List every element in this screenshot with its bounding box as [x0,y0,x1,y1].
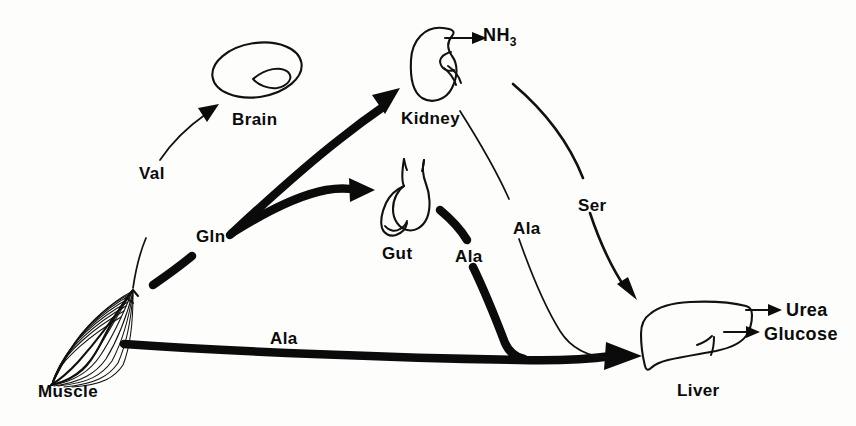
pathway-canvas [0,0,856,426]
product-label-glucose: Glucose [764,325,838,343]
metabolite-label-ser: Ser [578,197,607,214]
metabolite-label-ala-kidney: Ala [513,220,541,237]
stomach-gut-icon [381,159,429,236]
organ-label-kidney: Kidney [401,110,460,127]
flow-muscle-to-gln-trunk [153,256,192,285]
organ-label-muscle: Muscle [38,383,98,400]
pathway-diagram: Muscle Brain Kidney Gut Liver Val Gln Al… [0,0,856,426]
flow-muscle-to-liver-ala [124,342,642,370]
flow-kidney-to-liver-ser [513,84,637,300]
kidney-to-nh3-arrow [445,32,487,44]
metabolite-label-ala-gut: Ala [455,248,483,265]
organ-label-liver: Liver [677,382,720,399]
product-label-nh3: NH3 [483,26,517,48]
product-label-urea: Urea [786,301,828,319]
flow-muscle-to-brain-val [133,104,219,288]
skeletal-muscle-icon [51,290,138,387]
metabolite-label-ala-muscle: Ala [270,330,298,347]
nh3-formula-base: NH [483,25,510,45]
nh3-formula-subscript: 3 [510,35,517,49]
metabolite-label-val: Val [139,165,165,182]
brain-icon [208,36,305,103]
liver-to-glucose-arrow [724,326,760,338]
organ-label-brain: Brain [232,111,277,128]
organ-label-gut: Gut [382,245,412,262]
liver-icon [641,302,752,370]
flow-gut-to-liver-ala [440,210,524,359]
flow-gln-to-gut [232,178,375,233]
metabolite-label-gln: Gln [196,228,226,245]
